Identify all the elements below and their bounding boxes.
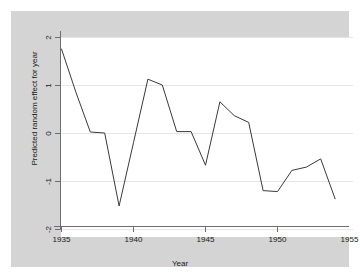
y-tick-label-0: 0: [44, 127, 53, 141]
axis-lines: [54, 31, 349, 230]
x-tick-label-1950: 1950: [265, 235, 290, 244]
x-tick-label-1940: 1940: [121, 235, 146, 244]
chart-frame: 2 1 0 -1 -2 1935 1940 1945 1950 1955 Pre…: [11, 11, 349, 267]
y-axis-ticks: [55, 38, 61, 230]
x-axis-title: Year: [11, 259, 349, 268]
y-tick-label-1: 1: [44, 79, 53, 93]
x-tick-label-1945: 1945: [193, 235, 218, 244]
x-tick-label-1955: 1955: [337, 235, 360, 244]
axes-svg: [11, 11, 349, 267]
y-axis-title: Predicted random effect for year: [30, 39, 39, 179]
x-axis-ticks: [62, 227, 350, 233]
y-tick-label-2: 2: [44, 31, 53, 45]
y-tick-label-neg1: -1: [44, 174, 53, 190]
x-tick-label-1935: 1935: [49, 235, 74, 244]
figure-canvas: 2 1 0 -1 -2 1935 1940 1945 1950 1955 Pre…: [0, 0, 360, 278]
